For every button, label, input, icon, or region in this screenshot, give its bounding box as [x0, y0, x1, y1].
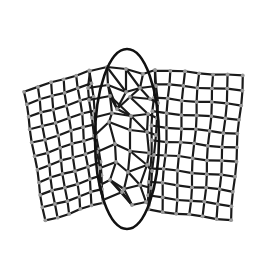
mesh-edge [164, 156, 166, 169]
mesh-edge [84, 141, 86, 154]
mesh-node [90, 116, 94, 120]
mesh-diagram [0, 0, 263, 256]
mesh-edge [151, 111, 152, 125]
mesh-node [48, 163, 52, 167]
mesh-node [146, 112, 150, 116]
mesh-node [77, 195, 81, 199]
mesh-edge [228, 75, 243, 76]
mesh-node [110, 111, 114, 115]
mesh-node [229, 218, 233, 222]
mesh-node [237, 118, 241, 122]
mesh-node [241, 89, 245, 93]
mesh-node [161, 195, 165, 199]
mesh-node [86, 86, 90, 90]
mesh-edge [56, 118, 70, 123]
mesh-edge [177, 185, 192, 187]
mesh-node [181, 84, 185, 88]
mesh-edge [132, 202, 146, 205]
mesh-edge [71, 130, 72, 143]
mesh-node [230, 204, 234, 208]
mesh-edge [82, 111, 94, 114]
mesh-node [180, 99, 184, 103]
mesh-node [145, 163, 149, 167]
mesh-edge [189, 201, 191, 215]
mesh-edge [151, 171, 152, 188]
mesh-node [90, 81, 94, 85]
mesh-edge [193, 143, 195, 158]
mesh-edge [222, 161, 237, 162]
mesh-node [223, 116, 227, 120]
mesh-node [174, 212, 178, 216]
mesh-edge [32, 140, 45, 143]
mesh-edge [68, 197, 80, 202]
mesh-node [175, 183, 179, 187]
mesh-edge [41, 110, 53, 113]
mesh-node [124, 90, 128, 94]
mesh-edge [40, 96, 52, 100]
mesh-edge [179, 142, 181, 156]
mesh-edge [206, 188, 219, 189]
mesh-edge [124, 185, 140, 189]
mesh-edge [80, 101, 82, 114]
mesh-node [145, 130, 149, 134]
mesh-edge [147, 132, 149, 153]
mesh-edge [140, 185, 146, 202]
mesh-node [81, 125, 85, 129]
mesh-node [106, 83, 110, 87]
mesh-edge [163, 212, 177, 214]
mesh-edge [65, 188, 68, 202]
mesh-node [84, 152, 88, 156]
mesh-edge [147, 114, 148, 132]
mesh-edge [227, 103, 241, 105]
mesh-edge [192, 158, 193, 173]
mesh-node [147, 180, 151, 184]
mesh-edge [90, 179, 91, 192]
mesh-edge [166, 128, 181, 129]
mesh-node [36, 85, 40, 89]
mesh-node [197, 71, 201, 75]
mesh-node [90, 204, 94, 208]
mesh-node [69, 129, 73, 133]
mesh-edge [150, 155, 151, 169]
mesh-node [39, 110, 43, 114]
mesh-edge [62, 171, 75, 174]
mesh-edge [206, 174, 207, 188]
mesh-edge [90, 67, 107, 71]
mesh-edge [177, 170, 192, 173]
mesh-node [108, 178, 112, 182]
mesh-edge [75, 167, 88, 171]
mesh-edge [73, 157, 75, 171]
mesh-edge [196, 129, 210, 131]
mesh-node [148, 97, 152, 101]
mesh-edge [179, 156, 193, 158]
mesh-edge [165, 142, 166, 155]
mesh-edge [197, 88, 198, 102]
mesh-edge [239, 106, 241, 120]
mesh-node [180, 113, 184, 117]
mesh-node [128, 149, 132, 153]
mesh-node [113, 142, 117, 146]
mesh-node [216, 202, 220, 206]
mesh-edge [208, 146, 222, 147]
mesh-edge [40, 190, 52, 194]
mesh-edge [148, 182, 149, 195]
mesh-node [67, 116, 71, 120]
mesh-node [166, 97, 170, 101]
mesh-edge [207, 146, 208, 160]
mesh-node [236, 132, 240, 136]
mesh-edge [130, 116, 131, 130]
mesh-node [165, 140, 169, 144]
mesh-edge [115, 144, 130, 151]
mesh-node [141, 72, 145, 76]
mesh-edge [212, 102, 227, 103]
mesh-edge [65, 88, 78, 93]
mesh-edge [221, 175, 235, 177]
mesh-edge [41, 112, 43, 126]
mesh-node [49, 176, 53, 180]
mesh-edge [155, 70, 156, 86]
mesh-node [107, 120, 111, 124]
mesh-node [192, 141, 196, 145]
mesh-node [187, 212, 191, 216]
mesh-node [165, 126, 169, 130]
mesh-node [40, 124, 44, 128]
